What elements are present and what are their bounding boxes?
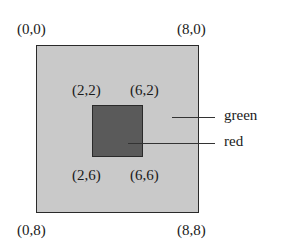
label-outer-top-left: (0,0) (17, 22, 46, 37)
green-leader-line (172, 117, 215, 118)
label-inner-top-right: (6,2) (130, 83, 159, 98)
legend-label-red: red (224, 134, 243, 149)
red-leader-line (128, 143, 215, 144)
label-inner-bottom-left: (2,6) (72, 168, 101, 183)
inner-square-red (92, 105, 143, 157)
label-outer-top-right: (8,0) (177, 22, 206, 37)
label-inner-bottom-right: (6,6) (130, 168, 159, 183)
legend-label-green: green (224, 108, 257, 123)
label-inner-top-left: (2,2) (72, 83, 101, 98)
label-outer-bottom-left: (0,8) (17, 223, 46, 238)
label-outer-bottom-right: (8,8) (177, 223, 206, 238)
